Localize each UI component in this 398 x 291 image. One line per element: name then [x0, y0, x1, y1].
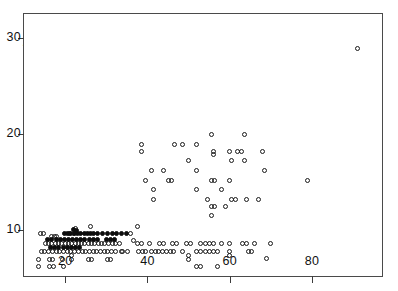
data-point — [95, 231, 100, 236]
data-point — [180, 142, 185, 147]
data-point — [215, 249, 220, 254]
data-point — [229, 158, 234, 163]
data-point — [95, 237, 100, 242]
scatter-plot-screenshot: Relative Absorption (5500 Å) Feulgen Nuc… — [0, 0, 398, 291]
data-point — [89, 257, 94, 262]
data-point — [227, 149, 232, 154]
data-point — [219, 187, 224, 192]
data-point — [239, 149, 244, 154]
data-point — [211, 152, 216, 157]
x-tick-mark — [65, 276, 66, 283]
data-point — [161, 168, 166, 173]
data-point — [125, 249, 130, 254]
data-point — [119, 249, 124, 254]
data-area — [24, 14, 382, 276]
data-point — [252, 241, 257, 246]
data-point — [194, 168, 199, 173]
data-point — [244, 241, 249, 246]
data-point — [147, 241, 152, 246]
data-point — [305, 178, 310, 183]
data-point — [211, 241, 216, 246]
data-point — [186, 158, 191, 163]
data-point — [264, 256, 269, 261]
plot-frame: 102030 20406080 — [23, 13, 383, 277]
data-point — [112, 237, 117, 242]
x-tick-mark — [312, 276, 313, 283]
data-point — [180, 249, 185, 254]
data-point — [194, 142, 199, 147]
x-tick-label: 60 — [222, 254, 237, 268]
data-point — [139, 149, 144, 154]
x-tick-label: 80 — [305, 254, 320, 268]
data-point — [174, 241, 179, 246]
data-point — [50, 257, 55, 262]
data-point — [198, 264, 203, 269]
data-point — [355, 46, 360, 51]
data-point — [209, 213, 214, 218]
data-point — [169, 178, 174, 183]
data-point — [260, 149, 265, 154]
data-point — [212, 178, 217, 183]
data-point — [242, 158, 247, 163]
data-point — [77, 245, 82, 250]
data-point — [151, 197, 156, 202]
y-tick-label: 20 — [6, 126, 21, 140]
data-point — [205, 197, 210, 202]
data-point — [171, 249, 176, 254]
data-point — [215, 264, 220, 269]
data-point — [262, 168, 267, 173]
data-point — [143, 249, 148, 254]
data-point — [105, 231, 110, 236]
data-point — [268, 241, 273, 246]
data-point — [212, 204, 217, 209]
data-point — [223, 204, 228, 209]
data-point — [139, 241, 144, 246]
data-point — [128, 231, 133, 236]
data-point — [36, 264, 41, 269]
data-point — [41, 231, 46, 236]
data-point — [143, 178, 148, 183]
data-point — [161, 241, 166, 246]
data-point — [172, 142, 177, 147]
x-tick-label: 20 — [58, 254, 73, 268]
data-point — [149, 168, 154, 173]
data-point — [51, 264, 56, 269]
x-tick-label: 40 — [140, 254, 155, 268]
y-tick-label: 10 — [6, 222, 21, 236]
data-point — [194, 187, 199, 192]
x-tick-mark — [147, 276, 148, 283]
data-point — [135, 224, 140, 229]
data-point — [88, 224, 93, 229]
data-point — [227, 178, 232, 183]
data-point — [139, 142, 144, 147]
data-point — [242, 132, 247, 137]
data-point — [186, 257, 191, 262]
data-point — [117, 241, 122, 246]
data-point — [233, 197, 238, 202]
data-point — [219, 241, 224, 246]
data-point — [108, 257, 113, 262]
data-point — [256, 197, 261, 202]
data-point — [209, 132, 214, 137]
x-tick-mark — [230, 276, 231, 283]
data-point — [249, 249, 254, 254]
data-point — [227, 241, 232, 246]
data-point — [113, 249, 118, 254]
data-point — [244, 197, 249, 202]
data-point — [188, 241, 193, 246]
data-point — [100, 231, 105, 236]
y-tick-label: 30 — [6, 30, 21, 44]
data-point — [36, 257, 41, 262]
data-point — [151, 187, 156, 192]
